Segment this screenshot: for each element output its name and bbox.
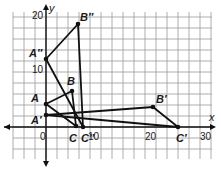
- coordinate-plane: xy01020302010ABCA′B′C′A″B″C″: [0, 0, 221, 169]
- y-axis-label: y: [48, 2, 56, 14]
- x-tick-label: 20: [145, 131, 157, 142]
- vertex-point: [74, 124, 79, 129]
- vertex-label: C′: [176, 132, 188, 144]
- vertex-label: B′: [156, 93, 168, 105]
- triangle-abc: [46, 24, 83, 127]
- triangle-abc: [46, 91, 76, 126]
- vertex-point: [44, 57, 49, 62]
- x-tick-label: 0: [40, 131, 46, 142]
- x-tick-label: 30: [200, 131, 212, 142]
- vertex-label: A″: [28, 47, 43, 59]
- vertex-label: B″: [80, 11, 94, 23]
- vertex-label: C: [69, 132, 78, 144]
- vertex-point: [70, 89, 75, 94]
- vertex-point: [81, 125, 86, 130]
- vertex-point: [151, 105, 156, 110]
- x-axis-right-arrow-icon: [210, 124, 216, 130]
- vertex-label: B: [67, 75, 75, 87]
- y-tick-label: 10: [32, 64, 44, 75]
- y-axis-down-arrow-icon: [43, 161, 49, 167]
- vertex-point: [44, 102, 49, 107]
- vertex-label: A′: [30, 114, 43, 126]
- x-axis-left-arrow-icon: [4, 124, 10, 130]
- vertex-point: [44, 113, 49, 118]
- x-axis-label: x: [208, 111, 215, 123]
- vertex-point: [176, 125, 181, 130]
- vertex-label: C″: [81, 132, 95, 144]
- y-tick-label: 20: [32, 10, 44, 21]
- vertex-label: A: [30, 92, 39, 104]
